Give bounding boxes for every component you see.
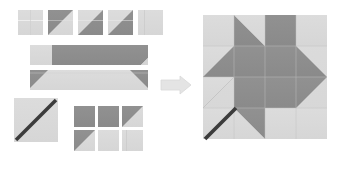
quilt-assembly-diagram: Maple Leaf Quilt Block Assembly Quilt bl…: [0, 0, 342, 169]
finished-quilt-block[interactable]: [203, 15, 327, 139]
bar-one-group[interactable]: [30, 45, 148, 65]
piece-hst-dark-top-left[interactable]: [48, 10, 73, 35]
grid-piece-light-2[interactable]: [122, 130, 143, 151]
bar-one-dark-wedge: [52, 45, 148, 65]
bar-two-group[interactable]: [30, 70, 148, 90]
piece-hst-dark-bottom-right-1[interactable]: [78, 10, 103, 35]
grid-piece-dark-1[interactable]: [74, 106, 95, 127]
piece-plain-light-1[interactable]: [18, 10, 43, 35]
top-row-group: [18, 10, 163, 35]
grid-piece-light-1[interactable]: [98, 130, 119, 151]
grid-piece-hst-top-left-2[interactable]: [74, 130, 95, 151]
piece-hst-dark-bottom-right-2[interactable]: [108, 10, 133, 35]
grid-piece-hst-top-left-1[interactable]: [122, 106, 143, 127]
piece-stem-square[interactable]: [14, 98, 58, 142]
bar-one-light-square: [30, 45, 52, 65]
grid-piece-dark-2[interactable]: [98, 106, 119, 127]
diagram-canvas: [0, 0, 342, 169]
piece-plain-light-2[interactable]: [138, 10, 163, 35]
